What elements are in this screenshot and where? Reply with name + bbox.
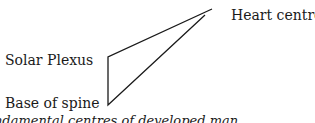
label-base-of-spine: Base of spine bbox=[5, 96, 100, 110]
label-solar-plexus: Solar Plexus bbox=[5, 53, 93, 67]
figure-caption: ndamental centres of developed man bbox=[0, 114, 238, 123]
label-heart-centre: Heart centre bbox=[231, 8, 315, 22]
triangle-lines bbox=[108, 9, 212, 105]
